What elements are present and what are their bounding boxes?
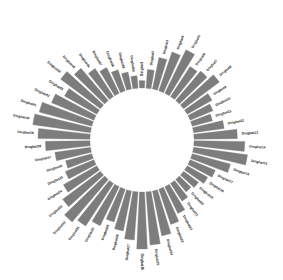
radial-chart-canvas: Dingbat1Dingbat2Dingbat3Dingbat4Dingbat5… xyxy=(0,0,283,280)
circular-bar-chart: Dingbat1Dingbat2Dingbat3Dingbat4Dingbat5… xyxy=(0,0,283,280)
radial-bar xyxy=(139,81,145,89)
radial-bar-label: Dingbat1 xyxy=(140,61,144,76)
radial-bar-label: Dingbat26 xyxy=(140,254,144,271)
